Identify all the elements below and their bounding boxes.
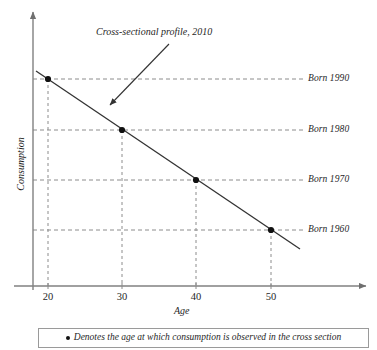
- x-tick-label-40: 40: [181, 292, 211, 303]
- cohort-label-born-1960: Born 1960: [308, 225, 349, 235]
- legend-bullet-icon: [66, 336, 70, 340]
- annotation-label: Cross-sectional profile, 2010: [96, 27, 212, 37]
- data-point-age-50: [268, 227, 274, 233]
- cohort-label-born-1980: Born 1980: [308, 125, 349, 135]
- data-point-age-20: [45, 76, 51, 82]
- data-point-age-40: [193, 177, 199, 183]
- x-tick-label-50: 50: [256, 292, 286, 303]
- annotation-arrow: [110, 44, 169, 105]
- legend-text: Denotes the age at which consumption is …: [74, 333, 341, 343]
- x-tick-label-30: 30: [107, 292, 137, 303]
- x-axis-title: Age: [174, 306, 190, 316]
- legend-box: Denotes the age at which consumption is …: [38, 328, 369, 348]
- gridlines-vertical: [48, 79, 271, 286]
- x-tick-label-20: 20: [33, 292, 63, 303]
- chart-figure: Cross-sectional profile, 2010 Born 1990 …: [0, 0, 377, 350]
- cohort-label-born-1990: Born 1990: [308, 74, 349, 84]
- cross-sectional-profile-line: [36, 71, 300, 249]
- y-axis-title: Consumption: [16, 124, 26, 204]
- gridlines-horizontal: [33, 79, 306, 230]
- cohort-label-born-1970: Born 1970: [308, 175, 349, 185]
- legend-row: Denotes the age at which consumption is …: [39, 329, 368, 347]
- data-point-age-30: [119, 127, 125, 133]
